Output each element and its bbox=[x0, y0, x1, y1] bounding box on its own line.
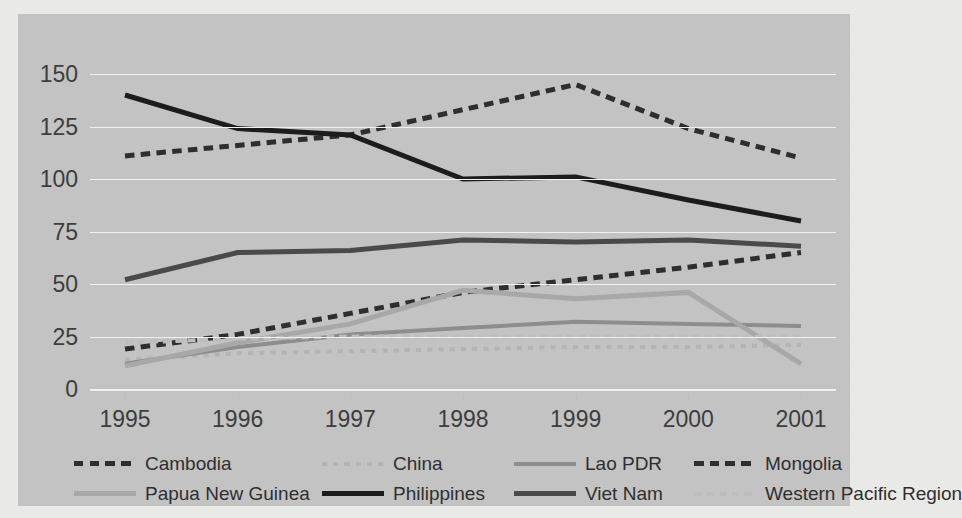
x-axis-tick bbox=[576, 394, 577, 401]
legend-item-papua-new-guinea[interactable]: Papua New Guinea bbox=[74, 480, 310, 507]
legend-swatch bbox=[322, 491, 384, 496]
legend-swatch bbox=[74, 461, 136, 466]
legend-label: China bbox=[393, 450, 443, 477]
legend-item-viet-nam[interactable]: Viet Nam bbox=[514, 480, 663, 507]
legend-label: Viet Nam bbox=[585, 480, 663, 507]
x-axis-tick-label: 1998 bbox=[437, 406, 488, 433]
series-line-philippines bbox=[125, 95, 801, 221]
legend-swatch bbox=[322, 462, 384, 466]
x-axis-tick bbox=[801, 394, 802, 401]
gridline bbox=[90, 74, 836, 75]
x-axis-line bbox=[90, 390, 836, 391]
x-axis-tick bbox=[125, 394, 126, 401]
legend-swatch bbox=[514, 462, 576, 466]
x-axis-tick bbox=[688, 394, 689, 401]
gridline bbox=[90, 337, 836, 338]
x-axis-tick-label: 2000 bbox=[663, 406, 714, 433]
legend-row: CambodiaChinaLao PDRMongolia bbox=[74, 450, 864, 477]
y-axis-tick-label: 150 bbox=[14, 61, 78, 88]
legend-label: Cambodia bbox=[145, 450, 232, 477]
gridline bbox=[90, 179, 836, 180]
legend-item-philippines[interactable]: Philippines bbox=[322, 480, 485, 507]
legend-swatch bbox=[694, 492, 756, 496]
x-axis-tick-label: 1997 bbox=[325, 406, 376, 433]
legend-label: Philippines bbox=[393, 480, 485, 507]
x-axis-tick-label: 2001 bbox=[775, 406, 826, 433]
x-axis-tick-label: 1996 bbox=[212, 406, 263, 433]
legend-item-lao-pdr[interactable]: Lao PDR bbox=[514, 450, 662, 477]
series-line-mongolia bbox=[125, 85, 801, 159]
x-axis-tick bbox=[350, 394, 351, 401]
x-axis-tick-label: 1995 bbox=[99, 406, 150, 433]
chart-legend: CambodiaChinaLao PDRMongoliaPapua New Gu… bbox=[74, 450, 864, 512]
x-axis-tick bbox=[463, 394, 464, 401]
plot-area bbox=[90, 53, 836, 389]
gridline bbox=[90, 389, 836, 390]
legend-item-mongolia[interactable]: Mongolia bbox=[694, 450, 842, 477]
series-layer bbox=[90, 53, 836, 389]
legend-swatch bbox=[514, 491, 576, 496]
y-axis-tick-label: 0 bbox=[14, 376, 78, 403]
y-axis-tick-label: 100 bbox=[14, 166, 78, 193]
legend-label: Papua New Guinea bbox=[145, 480, 310, 507]
legend-swatch bbox=[694, 461, 756, 466]
gridline bbox=[90, 232, 836, 233]
gridline bbox=[90, 284, 836, 285]
y-axis-tick-label: 125 bbox=[14, 113, 78, 140]
legend-swatch bbox=[74, 491, 136, 496]
y-axis-tick-label: 25 bbox=[14, 323, 78, 350]
x-axis-tick bbox=[238, 394, 239, 401]
legend-label: Lao PDR bbox=[585, 450, 662, 477]
x-axis-tick-label: 1999 bbox=[550, 406, 601, 433]
chart-container: 0255075100125150 19951996199719981999200… bbox=[18, 14, 850, 506]
legend-label: Mongolia bbox=[765, 450, 842, 477]
x-axis: 1995199619971998199920002001 bbox=[90, 394, 836, 438]
y-axis-tick-label: 75 bbox=[14, 218, 78, 245]
legend-item-cambodia[interactable]: Cambodia bbox=[74, 450, 232, 477]
legend-row: Papua New GuineaPhilippinesViet NamWeste… bbox=[74, 480, 864, 507]
legend-label: Western Pacific Region bbox=[765, 480, 962, 507]
legend-item-china[interactable]: China bbox=[322, 450, 443, 477]
series-line-viet-nam bbox=[125, 240, 801, 280]
gridline bbox=[90, 127, 836, 128]
legend-item-western-pacific-region[interactable]: Western Pacific Region bbox=[694, 480, 962, 507]
y-axis-tick-label: 50 bbox=[14, 271, 78, 298]
